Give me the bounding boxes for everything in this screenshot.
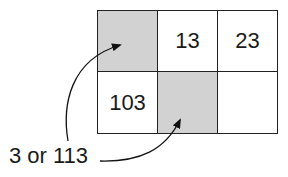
arrow-to-top-left-cell-icon	[66, 45, 120, 141]
annotation-label: 3 or 113	[9, 143, 88, 169]
arrow-to-bottom-middle-cell-icon	[100, 120, 180, 161]
